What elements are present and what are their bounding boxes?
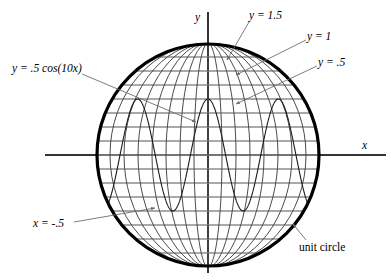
leader-line-unitcircle <box>293 224 306 240</box>
label-y-equals-1point5: y = 1.5 <box>249 10 282 22</box>
label-x-equals-negative-point5: x = -.5 <box>33 218 64 230</box>
figure-canvas <box>0 0 391 280</box>
leader-line-xneg05 <box>74 208 155 222</box>
y-axis-label: y <box>195 12 200 24</box>
label-y-equals-point5: y = .5 <box>318 57 345 69</box>
leader-line-cosine <box>82 74 196 122</box>
label-y-equals-1: y = 1 <box>307 31 331 43</box>
label-cosine-equation: y = .5 cos(10x) <box>12 63 82 75</box>
x-axis-label: x <box>362 140 367 152</box>
figure-root: y = .5 cos(10x) y = 1.5 y = 1 y = .5 x =… <box>0 0 391 280</box>
label-unit-circle: unit circle <box>299 242 345 254</box>
